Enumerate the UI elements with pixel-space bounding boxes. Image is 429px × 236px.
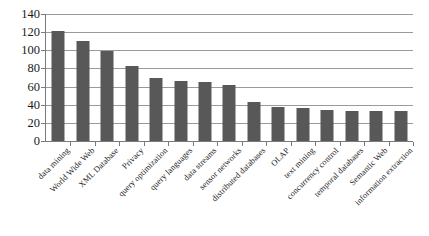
bar-slot xyxy=(193,14,217,141)
bar[interactable] xyxy=(272,107,285,141)
bar-slot xyxy=(119,14,143,141)
bar[interactable] xyxy=(247,102,260,141)
bar-slot xyxy=(364,14,388,141)
y-tick-label: 20 xyxy=(0,116,40,129)
bar[interactable] xyxy=(296,108,309,141)
bar[interactable] xyxy=(101,51,114,141)
bar[interactable] xyxy=(370,111,383,141)
bar-slot xyxy=(291,14,315,141)
bar-slot xyxy=(217,14,241,141)
bar-slot xyxy=(389,14,413,141)
y-tick-label: 80 xyxy=(0,62,40,75)
bar-slot xyxy=(266,14,290,141)
bar[interactable] xyxy=(345,111,358,141)
bar[interactable] xyxy=(76,41,89,141)
x-axis-line xyxy=(45,141,413,142)
bar[interactable] xyxy=(150,78,163,141)
y-tick-label: 60 xyxy=(0,80,40,93)
bar-chart: 020406080100120140 data miningWorld Wide… xyxy=(0,0,429,236)
bar[interactable] xyxy=(394,111,407,141)
bar-slot xyxy=(168,14,192,141)
bar-slot xyxy=(70,14,94,141)
plot-area xyxy=(45,14,413,142)
bar-slot xyxy=(242,14,266,141)
bar-slot xyxy=(46,14,70,141)
bar-slot xyxy=(340,14,364,141)
bar-slot xyxy=(95,14,119,141)
bar[interactable] xyxy=(174,81,187,141)
y-tick-label: 0 xyxy=(0,135,40,148)
bar[interactable] xyxy=(321,110,334,141)
bar[interactable] xyxy=(125,66,138,141)
bars-layer xyxy=(46,14,413,141)
bar-slot xyxy=(315,14,339,141)
y-axis: 020406080100120140 xyxy=(0,7,40,148)
bar-slot xyxy=(144,14,168,141)
y-tick-label: 140 xyxy=(0,8,40,21)
x-axis: data miningWorld Wide WebXML DatabasePri… xyxy=(45,146,429,236)
y-tick-label: 120 xyxy=(0,26,40,39)
bar[interactable] xyxy=(52,31,65,141)
y-tick-label: 40 xyxy=(0,98,40,111)
bar[interactable] xyxy=(199,82,212,141)
y-tick-label: 100 xyxy=(0,44,40,57)
x-tick-label: OLAP xyxy=(270,146,292,168)
bar[interactable] xyxy=(223,85,236,141)
